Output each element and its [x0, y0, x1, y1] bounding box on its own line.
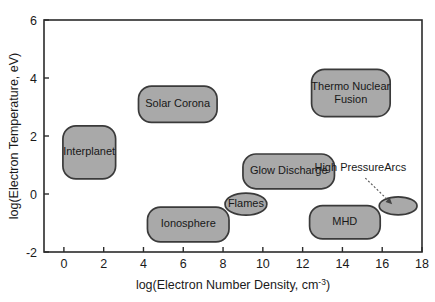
x-axis-title-suffix: ) [326, 278, 330, 292]
region-flames-label: Flames [228, 197, 265, 209]
x-tick-label: 18 [415, 257, 429, 271]
y-tick-label: 6 [30, 14, 37, 28]
region-solar-corona-label: Solar Corona [145, 97, 211, 109]
y-axis-title-text: log(Electron Temperature, eV) [7, 53, 21, 220]
x-axis-title: log(Electron Number Density, cm-3) [136, 277, 330, 292]
x-tick-label: 14 [335, 257, 349, 271]
chart-svg: 024681012141618 -20246 InterplanetSolar … [0, 0, 435, 302]
x-tick-label: 10 [256, 257, 270, 271]
region-interplanet-label: Interplanet [63, 145, 115, 157]
x-tick-label: 12 [296, 257, 310, 271]
y-tick-label: 0 [30, 188, 37, 202]
y-tick-label: -2 [26, 246, 37, 260]
x-tick-label: 16 [375, 257, 389, 271]
x-tick-label: 6 [180, 257, 187, 271]
x-axis-title-text: log(Electron Number Density, cm [136, 278, 318, 292]
annotation-high-pressurearcs-leader-line [365, 178, 388, 201]
x-axis-ticks: 024681012141618 [60, 247, 429, 271]
x-tick-label: 4 [140, 257, 147, 271]
svg-text:log(Electron Number Density, c: log(Electron Number Density, cm-3) [136, 277, 330, 292]
region-ionosphere-label: Ionosphere [161, 217, 216, 229]
x-tick-label: 0 [60, 257, 67, 271]
y-tick-label: 4 [30, 72, 37, 86]
plasma-regime-chart: 024681012141618 -20246 InterplanetSolar … [0, 0, 435, 302]
region-mhd-label: MHD [332, 215, 357, 227]
y-tick-label: 2 [30, 130, 37, 144]
y-axis-title: log(Electron Temperature, eV) [7, 53, 21, 220]
annotation-high-pressurearcs-label: High PressureArcs [314, 161, 406, 173]
x-tick-label: 8 [220, 257, 227, 271]
y-axis-ticks: -20246 [26, 14, 49, 260]
x-tick-label: 2 [100, 257, 107, 271]
region-high-pressure-arcs [379, 197, 417, 215]
region-shapes-group: InterplanetSolar CoronaGlow DischargeThe… [63, 69, 417, 242]
